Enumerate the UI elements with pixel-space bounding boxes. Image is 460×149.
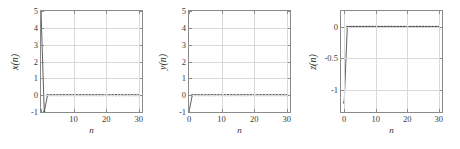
x-tick-mark <box>189 11 190 14</box>
x-tick-mark <box>407 109 408 112</box>
y-tick-mark <box>41 45 44 46</box>
x-gridline <box>139 11 140 112</box>
y-gridline <box>41 78 142 79</box>
y-gridline <box>189 45 290 46</box>
x-gridline <box>74 11 75 112</box>
y-tick-mark <box>41 78 44 79</box>
x-tick-mark <box>407 11 408 14</box>
y-tick-label: 4 <box>182 24 186 33</box>
x-tick-mark <box>139 109 140 112</box>
x-tick-label: 10 <box>371 115 380 124</box>
x-tick-label: 0 <box>187 115 191 124</box>
x-axis-title: n <box>340 126 443 135</box>
x-tick-mark <box>344 11 345 14</box>
x-tick-mark <box>376 109 377 112</box>
plot-panel-x: x(n) -1012345102030 n <box>2 0 152 149</box>
y-gridline <box>41 45 142 46</box>
y-tick-mark <box>41 95 44 96</box>
y-gridline <box>341 58 442 59</box>
x-gridline <box>222 11 223 112</box>
figure-container: x(n) -1012345102030 n y(n) -101234501020… <box>0 0 460 149</box>
y-tick-label: -1 <box>31 108 38 117</box>
y-tick-label: 4 <box>34 24 38 33</box>
data-line <box>344 27 439 103</box>
x-tick-label: 30 <box>134 115 143 124</box>
y-tick-label: 2 <box>182 57 186 66</box>
y-tick-mark <box>189 45 192 46</box>
x-tick-mark <box>376 11 377 14</box>
y-tick-label: 0 <box>334 23 338 32</box>
x-tick-label: 20 <box>102 115 111 124</box>
y-tick-mark <box>189 62 192 63</box>
x-tick-mark <box>344 109 345 112</box>
y-gridline <box>189 62 290 63</box>
y-gridline <box>41 62 142 63</box>
x-gridline <box>407 11 408 112</box>
y-tick-mark <box>139 112 142 113</box>
y-tick-label: -1 <box>179 108 186 117</box>
x-tick-label: 20 <box>403 115 412 124</box>
y-axis-title: x(n) <box>8 10 22 113</box>
y-tick-label: 0 <box>34 91 38 100</box>
x-tick-mark <box>439 109 440 112</box>
x-gridline <box>287 11 288 112</box>
x-gridline <box>254 11 255 112</box>
x-tick-mark <box>106 11 107 14</box>
x-gridline <box>106 11 107 112</box>
plot-panel-z: z(n) -1-0.500102030 n <box>300 0 450 149</box>
y-tick-mark <box>41 112 44 113</box>
plot-axes: -1-0.500102030 <box>340 10 443 113</box>
x-gridline <box>344 11 345 112</box>
x-tick-mark <box>439 11 440 14</box>
y-gridline <box>41 95 142 96</box>
y-gridline <box>189 28 290 29</box>
x-tick-mark <box>254 109 255 112</box>
y-tick-mark <box>189 95 192 96</box>
plot-axes: -10123450102030 <box>188 10 291 113</box>
y-tick-label: 2 <box>34 57 38 66</box>
x-tick-mark <box>222 109 223 112</box>
x-tick-label: 10 <box>217 115 226 124</box>
y-tick-label: -1 <box>331 86 338 95</box>
x-gridline <box>376 11 377 112</box>
y-tick-mark <box>189 78 192 79</box>
x-tick-mark <box>41 11 42 14</box>
x-tick-mark <box>106 109 107 112</box>
y-tick-mark <box>41 62 44 63</box>
x-tick-mark <box>287 11 288 14</box>
plot-panel-y: y(n) -10123450102030 n <box>150 0 300 149</box>
data-line <box>189 95 287 112</box>
x-tick-mark <box>74 109 75 112</box>
y-axis-title: y(n) <box>156 10 170 113</box>
x-axis-title: n <box>188 126 291 135</box>
y-gridline <box>41 28 142 29</box>
y-tick-label: 3 <box>34 40 38 49</box>
x-axis-title: n <box>40 126 143 135</box>
y-gridline <box>341 27 442 28</box>
y-gridline <box>189 78 290 79</box>
x-tick-mark <box>287 109 288 112</box>
y-tick-label: 1 <box>34 74 38 83</box>
x-gridline <box>439 11 440 112</box>
x-tick-label: 10 <box>69 115 78 124</box>
y-tick-label: -0.5 <box>325 54 338 63</box>
plot-axes: -1012345102030 <box>40 10 143 113</box>
x-tick-mark <box>74 11 75 14</box>
x-tick-mark <box>139 11 140 14</box>
y-tick-label: 5 <box>34 7 38 16</box>
y-tick-label: 3 <box>182 40 186 49</box>
x-tick-label: 30 <box>282 115 291 124</box>
x-tick-mark <box>254 11 255 14</box>
y-tick-label: 0 <box>182 91 186 100</box>
x-tick-mark <box>41 109 42 112</box>
y-gridline <box>189 95 290 96</box>
x-tick-label: 0 <box>342 115 346 124</box>
x-tick-mark <box>222 11 223 14</box>
y-gridline <box>341 90 442 91</box>
x-tick-label: 20 <box>250 115 259 124</box>
x-tick-mark <box>189 109 190 112</box>
y-axis-title: z(n) <box>306 10 320 113</box>
y-tick-label: 5 <box>182 7 186 16</box>
y-tick-label: 1 <box>182 74 186 83</box>
y-tick-mark <box>189 112 192 113</box>
